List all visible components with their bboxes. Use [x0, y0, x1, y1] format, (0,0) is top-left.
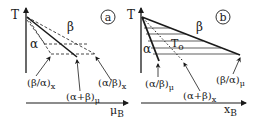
- t-axis-label-b: T: [127, 8, 135, 22]
- pointer-arrow-b2: [184, 63, 200, 91]
- panel-b: T β α To b (α/β)μ (α+β)x (β/α)μ xB: [127, 8, 246, 118]
- svg-text:b: b: [219, 11, 226, 24]
- t0-label: To: [171, 37, 184, 52]
- pointer-arrow-b3: [233, 58, 240, 74]
- annotation-alpha-beta-mu: (α/β)μ: [145, 78, 174, 92]
- region-alpha-b: α: [143, 42, 151, 56]
- t-axis-label-a: T: [11, 8, 19, 22]
- svg-text:a: a: [105, 11, 112, 24]
- x-b-axis-label: xB: [224, 103, 237, 118]
- region-beta-b: β: [196, 20, 203, 34]
- pointer-arrow-a1: [36, 57, 50, 76]
- pointer-arrow-a2: [77, 60, 80, 91]
- mu-b-axis-label: μB: [110, 104, 124, 119]
- annotation-beta-alpha-mu: (β/α)μ: [216, 74, 245, 88]
- phase-diagram: T β α a (β/α)x (α+β)μ (α/β)x μB T: [0, 0, 258, 124]
- panel-a: T β α a (β/α)x (α+β)μ (α/β)x μB: [11, 8, 128, 119]
- region-alpha-a: α: [30, 37, 38, 51]
- annotation-alpha-beta-x: (α/β)x: [98, 77, 127, 91]
- region-beta-a: β: [67, 20, 74, 34]
- annotation-alpha-plus-beta-x: (α+β)x: [183, 90, 217, 104]
- annotation-beta-alpha-x: (β/α)x: [27, 77, 56, 91]
